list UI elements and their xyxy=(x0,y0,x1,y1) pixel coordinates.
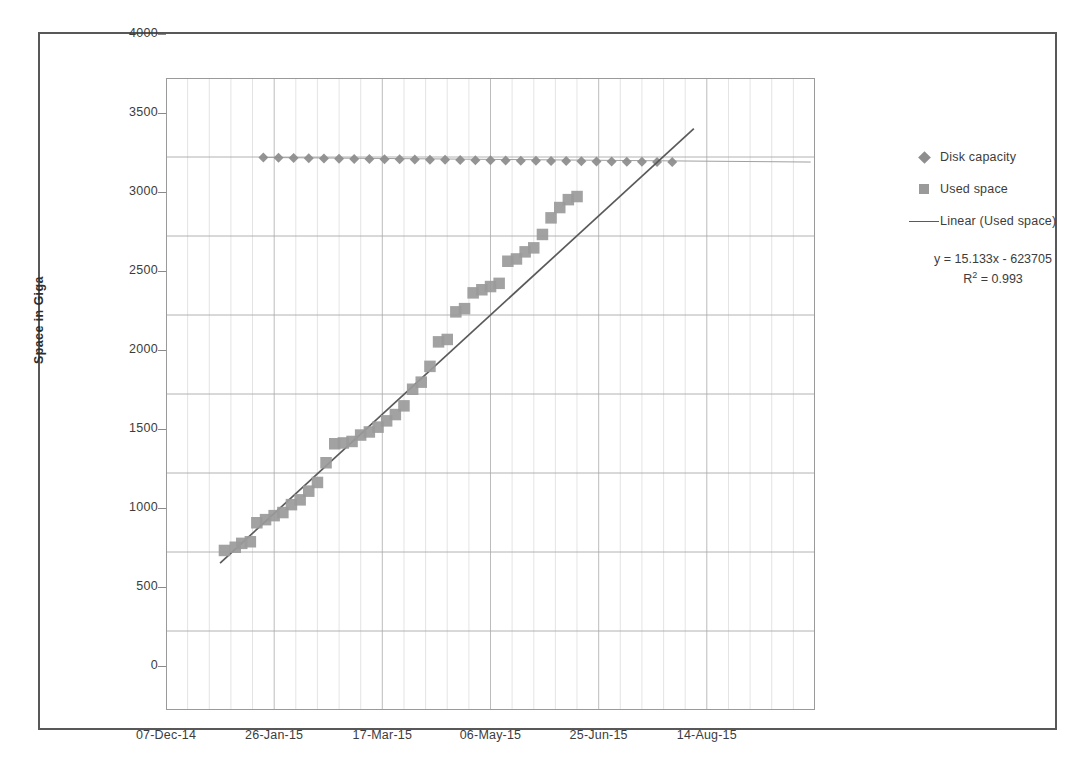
legend-item-used-space[interactable]: Used space xyxy=(908,176,1078,202)
data-point-disk-capacity xyxy=(319,154,329,164)
y-axis-tick-mark xyxy=(158,34,166,35)
x-axis-tick-label: 14-Aug-15 xyxy=(657,728,757,742)
data-point-disk-capacity xyxy=(410,155,420,165)
y-axis-tick-label: 500 xyxy=(136,579,158,593)
data-point-used-space xyxy=(537,229,549,241)
data-point-disk-capacity xyxy=(289,153,299,163)
equation-line: y = 15.133x - 623705 xyxy=(908,250,1078,269)
data-point-used-space xyxy=(442,334,454,346)
data-point-disk-capacity xyxy=(258,152,268,162)
legend-item-trendline[interactable]: Linear (Used space) xyxy=(908,208,1078,234)
x-axis-tick-label: 17-Mar-15 xyxy=(332,728,432,742)
data-point-used-space xyxy=(459,303,471,315)
data-point-disk-capacity xyxy=(592,156,602,166)
data-point-disk-capacity xyxy=(395,154,405,164)
legend-label-trendline: Linear (Used space) xyxy=(940,214,1056,228)
data-point-used-space xyxy=(320,457,332,469)
data-point-used-space xyxy=(312,477,324,489)
y-axis-tick-label: 4000 xyxy=(129,26,158,40)
r-squared-label: R xyxy=(963,273,972,287)
data-point-disk-capacity xyxy=(561,156,571,166)
data-point-used-space xyxy=(245,536,257,548)
x-axis-tick-label: 07-Dec-14 xyxy=(116,728,216,742)
data-point-used-space xyxy=(424,361,436,373)
data-point-disk-capacity xyxy=(334,154,344,164)
y-axis-tick-mark xyxy=(158,192,166,193)
y-axis-tick-mark xyxy=(158,666,166,667)
data-point-disk-capacity xyxy=(622,157,632,167)
data-point-disk-capacity xyxy=(576,156,586,166)
data-point-used-space xyxy=(416,376,428,388)
line-marker-icon xyxy=(908,221,940,222)
legend-label-disk-capacity: Disk capacity xyxy=(940,150,1016,164)
data-point-disk-capacity xyxy=(667,157,677,167)
r-squared-exponent: 2 xyxy=(972,270,977,280)
diamond-marker-icon xyxy=(908,153,940,162)
y-axis-tick-mark xyxy=(158,508,166,509)
data-point-disk-capacity xyxy=(607,157,617,167)
data-point-used-space xyxy=(219,545,231,557)
trendline-equation: y = 15.133x - 623705 R2 = 0.993 xyxy=(908,250,1078,290)
r-squared-line: R2 = 0.993 xyxy=(908,269,1078,290)
legend-label-used-space: Used space xyxy=(940,182,1008,196)
data-point-disk-capacity xyxy=(349,154,359,164)
y-axis-title: Space in Giga xyxy=(32,276,46,364)
chart-frame: 40003500300025002000150010005000 Space i… xyxy=(38,32,1057,730)
y-axis-tick-mark xyxy=(158,271,166,272)
y-axis-tick-labels: 40003500300025002000150010005000 xyxy=(94,34,158,666)
data-point-disk-capacity xyxy=(379,154,389,164)
square-marker-icon xyxy=(908,184,940,194)
data-point-used-space xyxy=(398,400,410,412)
data-point-disk-capacity xyxy=(273,153,283,163)
y-axis-tick-label: 0 xyxy=(151,658,158,672)
data-point-disk-capacity xyxy=(304,153,314,163)
plot-area xyxy=(166,78,815,710)
data-point-disk-capacity xyxy=(440,155,450,165)
x-axis-tick-label: 25-Jun-15 xyxy=(549,728,649,742)
data-point-disk-capacity xyxy=(364,154,374,164)
data-point-used-space xyxy=(493,278,505,290)
y-axis-tick-label: 1000 xyxy=(129,500,158,514)
y-axis-tick-label: 1500 xyxy=(129,421,158,435)
data-point-used-space xyxy=(528,242,540,254)
legend-item-disk-capacity[interactable]: Disk capacity xyxy=(908,144,1078,170)
data-point-used-space xyxy=(571,191,583,203)
y-axis-tick-label: 2500 xyxy=(129,263,158,277)
y-axis-tick-label: 3500 xyxy=(129,105,158,119)
data-point-disk-capacity xyxy=(637,157,647,167)
y-axis-tick-label: 2000 xyxy=(129,342,158,356)
y-axis-tick-mark xyxy=(158,587,166,588)
chart-canvas xyxy=(166,78,815,710)
x-axis-tick-label: 26-Jan-15 xyxy=(224,728,324,742)
r-squared-value: = 0.993 xyxy=(981,273,1023,287)
chart-page: 40003500300025002000150010005000 Space i… xyxy=(0,0,1091,763)
y-axis-tick-label: 3000 xyxy=(129,184,158,198)
data-point-disk-capacity xyxy=(455,155,465,165)
data-point-disk-capacity xyxy=(425,155,435,165)
chart-legend: Disk capacity Used space Linear (Used sp… xyxy=(908,144,1078,290)
y-axis-tick-mark xyxy=(158,350,166,351)
trend-line xyxy=(220,129,694,564)
x-axis-tick-labels: 07-Dec-1426-Jan-1517-Mar-1506-May-1525-J… xyxy=(40,722,940,750)
data-point-used-space xyxy=(545,212,557,224)
y-axis-tick-mark xyxy=(158,113,166,114)
x-axis-tick-label: 06-May-15 xyxy=(441,728,541,742)
y-axis-tick-mark xyxy=(158,429,166,430)
